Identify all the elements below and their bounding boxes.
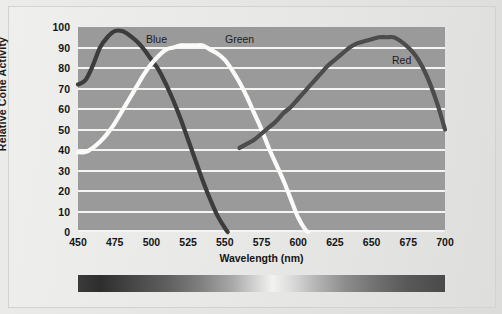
cone-response-curves: [78, 27, 445, 232]
figure-container: Relative Cone Activity 100 90 80 70 60 5…: [0, 0, 502, 314]
y-tick-label: 40: [36, 144, 70, 156]
y-tick-label: 80: [36, 62, 70, 74]
y-tick-label: 30: [36, 165, 70, 177]
curve-red: [239, 37, 445, 148]
plot-area: [78, 27, 445, 232]
curve-label-blue: Blue: [146, 33, 167, 45]
y-tick-label: 50: [36, 124, 70, 136]
visible-spectrum-bar: [78, 275, 445, 292]
curve-label-green: Green: [225, 33, 254, 45]
y-tick-label: 70: [36, 83, 70, 95]
y-tick-label: 90: [36, 42, 70, 54]
x-axis-title: Wavelength (nm): [78, 252, 445, 264]
y-tick-label: 10: [36, 206, 70, 218]
y-tick-label: 20: [36, 185, 70, 197]
x-tick-label: 700: [423, 236, 467, 248]
curve-green: [78, 45, 308, 232]
y-tick-label: 60: [36, 103, 70, 115]
curve-label-red: Red: [392, 54, 411, 66]
y-axis-title: Relative Cone Activity: [0, 0, 8, 264]
y-tick-label: 100: [36, 21, 70, 33]
